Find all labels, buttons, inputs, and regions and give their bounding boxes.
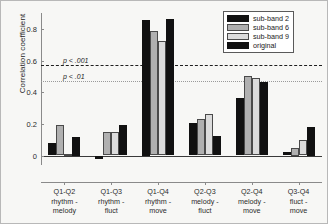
bar bbox=[103, 132, 111, 155]
x-tick-mark bbox=[158, 182, 159, 185]
legend-swatch bbox=[227, 33, 249, 40]
legend-item: sub-band 6 bbox=[227, 23, 289, 32]
bar bbox=[260, 82, 268, 155]
y-tick-mark bbox=[41, 156, 44, 157]
x-group-label-line: rhythm - bbox=[134, 197, 182, 207]
bar bbox=[307, 127, 315, 156]
y-tick-label: 0.2 bbox=[19, 119, 37, 128]
x-group-label-line: rhythm - bbox=[40, 197, 88, 207]
y-tick-label: 0.4 bbox=[19, 88, 37, 97]
x-group-label-line: fluct bbox=[181, 206, 229, 216]
legend-item: sub-band 9 bbox=[227, 32, 289, 41]
x-group-label-line: Q1-Q3 bbox=[87, 187, 135, 197]
x-group-label-line: Q3-Q4 bbox=[275, 187, 323, 197]
x-group-label: Q1-Q4rhythm -move bbox=[134, 187, 182, 216]
bar bbox=[48, 143, 56, 156]
bar bbox=[213, 136, 221, 156]
legend-label: sub-band 2 bbox=[253, 14, 289, 23]
p-01-line bbox=[41, 81, 322, 82]
x-group-label-line: fluct - bbox=[275, 197, 323, 207]
x-group-label-line: rhythm - bbox=[87, 197, 135, 207]
x-group-label: Q1-Q3rhythm -fluct bbox=[87, 187, 135, 216]
bar bbox=[205, 114, 213, 156]
x-group-label: Q2-Q3melody -fluct bbox=[181, 187, 229, 216]
bar bbox=[119, 125, 127, 155]
bar bbox=[95, 156, 103, 159]
bar bbox=[64, 154, 72, 156]
legend-item: sub-band 2 bbox=[227, 14, 289, 23]
x-tick-mark bbox=[64, 182, 65, 185]
bar bbox=[236, 98, 244, 156]
y-tick-mark bbox=[41, 124, 44, 125]
p-01-line-label: p < .01 bbox=[63, 73, 85, 80]
x-group-label-line: Q2-Q3 bbox=[181, 187, 229, 197]
legend-swatch bbox=[227, 24, 249, 31]
x-group-label-line: Q2-Q4 bbox=[228, 187, 276, 197]
bar bbox=[158, 41, 166, 155]
x-group-label-line: Q1-Q2 bbox=[40, 187, 88, 197]
y-tick-label: 0.8 bbox=[19, 24, 37, 33]
x-tick-mark bbox=[252, 182, 253, 185]
bar bbox=[111, 132, 119, 155]
p-001-line-label: p < .001 bbox=[63, 57, 89, 64]
y-tick-mark bbox=[41, 61, 44, 62]
bar bbox=[142, 20, 150, 155]
legend-label: sub-band 9 bbox=[253, 32, 289, 41]
legend: sub-band 2sub-band 6sub-band 9original bbox=[223, 11, 294, 53]
x-group-label-line: melody - bbox=[228, 197, 276, 207]
x-group-label: Q3-Q4fluct -move bbox=[275, 187, 323, 216]
legend-label: original bbox=[253, 41, 276, 50]
p-001-line bbox=[41, 65, 322, 66]
zero-baseline bbox=[41, 156, 322, 157]
x-group-label-line: fluct bbox=[87, 206, 135, 216]
x-group-label: Q1-Q2rhythm -melody bbox=[40, 187, 88, 216]
legend-swatch bbox=[227, 15, 249, 22]
x-group-label-line: move bbox=[275, 206, 323, 216]
bar bbox=[252, 78, 260, 155]
y-tick-mark bbox=[41, 92, 44, 93]
bar bbox=[189, 123, 197, 155]
x-group-label-line: move bbox=[228, 206, 276, 216]
x-axis-line bbox=[41, 182, 322, 183]
x-group-label-line: Q1-Q4 bbox=[134, 187, 182, 197]
bar bbox=[283, 152, 291, 155]
bar bbox=[72, 137, 80, 156]
y-tick-label: 0 bbox=[19, 151, 37, 160]
bar bbox=[166, 19, 174, 155]
legend-swatch bbox=[227, 42, 249, 49]
x-tick-mark bbox=[111, 182, 112, 185]
bar bbox=[291, 148, 299, 155]
x-tick-mark bbox=[299, 182, 300, 185]
x-tick-mark bbox=[205, 182, 206, 185]
bar bbox=[197, 119, 205, 155]
bar bbox=[299, 140, 307, 156]
bar bbox=[244, 76, 252, 155]
y-tick-label: 0.6 bbox=[19, 56, 37, 65]
y-tick-mark bbox=[41, 29, 44, 30]
bar bbox=[150, 31, 158, 155]
x-group-label: Q2-Q4melody -move bbox=[228, 187, 276, 216]
y-axis-spine bbox=[41, 13, 42, 165]
x-group-label-line: melody - bbox=[181, 197, 229, 207]
legend-label: sub-band 6 bbox=[253, 23, 289, 32]
x-group-label-line: melody bbox=[40, 206, 88, 216]
legend-item: original bbox=[227, 41, 289, 50]
correlation-bar-chart-figure: Correlation coefficient 00.20.40.60.8 p … bbox=[0, 0, 328, 224]
bar bbox=[56, 125, 64, 155]
x-group-label-line: move bbox=[134, 206, 182, 216]
